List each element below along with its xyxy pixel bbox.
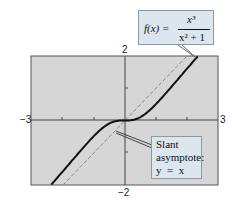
x-max-label: 3 [220,115,226,125]
function-denominator: x² + 1 [179,31,205,43]
x-min-label: −3 [20,115,31,125]
asymptote-callout: Slant asymptote: y = x [151,136,202,179]
asymptote-line2: asymptote: [156,151,201,164]
function-callout: f(x) = x³ x² + 1 [138,10,214,45]
asymptote-line1: Slant [156,138,201,151]
y-max-label: 2 [122,45,128,55]
fraction-bar [178,29,210,30]
y-min-label: −2 [118,188,129,198]
function-numerator: x³ [187,13,195,25]
asymptote-line3: y = x [156,164,201,177]
function-lhs: f(x) = [144,22,169,34]
